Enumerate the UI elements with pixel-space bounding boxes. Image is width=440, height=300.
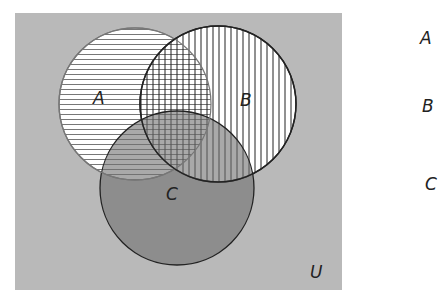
legend-a: A <box>419 28 432 48</box>
legend-c: C <box>425 174 437 194</box>
legend-b: B <box>422 96 434 116</box>
venn-diagram: A B C U A B C <box>0 0 440 300</box>
set-c-label: C <box>166 184 178 204</box>
set-b-label: B <box>240 90 252 110</box>
universe-label: U <box>310 262 323 282</box>
set-a-label: A <box>92 88 105 108</box>
